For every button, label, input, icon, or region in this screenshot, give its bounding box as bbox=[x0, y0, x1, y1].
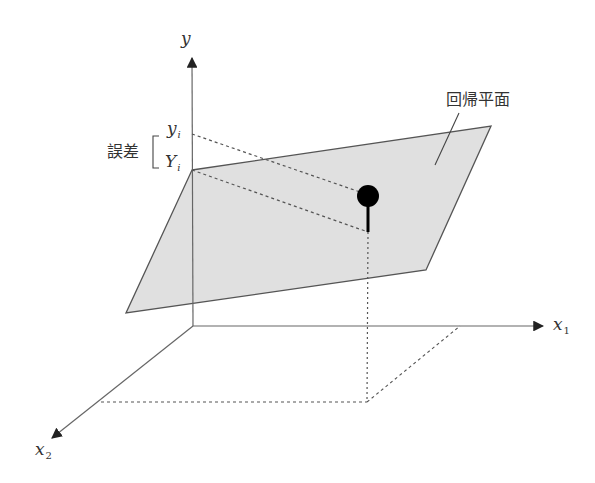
error-label-text: 誤差 bbox=[107, 142, 139, 161]
error-bracket bbox=[153, 136, 159, 168]
predicted-value-text: Y bbox=[165, 151, 176, 171]
error-label: 誤差 bbox=[107, 144, 139, 160]
x2-axis-label-text: x bbox=[35, 439, 45, 459]
regression-plane-diagram bbox=[0, 0, 595, 483]
regression-plane bbox=[126, 126, 491, 313]
x1-axis-label: x1 bbox=[553, 316, 570, 336]
predicted-value-label: Yi bbox=[165, 153, 180, 173]
observed-value-label: yi bbox=[167, 120, 181, 140]
x1-axis-label-sub: 1 bbox=[564, 325, 570, 336]
x2-axis-label: x2 bbox=[35, 441, 52, 461]
data-point bbox=[357, 185, 379, 207]
dashed-floor-x1 bbox=[367, 326, 460, 402]
regression-plane-label: 回帰平面 bbox=[446, 92, 510, 108]
y-axis-label-text: y bbox=[181, 28, 191, 48]
x1-axis-label-text: x bbox=[553, 314, 563, 334]
regression-plane-label-text: 回帰平面 bbox=[446, 90, 510, 109]
x2-axis-label-sub: 2 bbox=[46, 450, 52, 461]
x2-axis bbox=[52, 326, 193, 438]
y-axis-label: y bbox=[181, 30, 191, 47]
observed-value-sub: i bbox=[178, 129, 181, 140]
observed-value-text: y bbox=[167, 118, 177, 138]
predicted-value-sub: i bbox=[177, 162, 180, 173]
